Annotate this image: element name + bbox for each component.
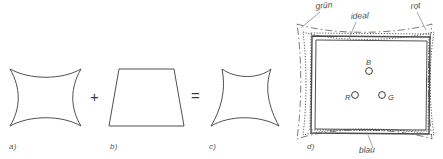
shape-trapezoid-b bbox=[109, 69, 184, 126]
convergence-diagram-d bbox=[297, 12, 434, 148]
point-label-b: B bbox=[366, 58, 371, 67]
frame-blue bbox=[310, 33, 429, 131]
panel-label-d: d) bbox=[307, 142, 315, 151]
frame-red bbox=[303, 32, 434, 135]
point-label-r: R bbox=[345, 93, 350, 102]
equals-operator: = bbox=[191, 88, 200, 103]
plus-operator: + bbox=[90, 89, 99, 104]
point-label-g: G bbox=[388, 93, 394, 102]
curve-label-blau: blau bbox=[359, 144, 375, 155]
convergence-point-b bbox=[366, 68, 373, 75]
convergence-point-r bbox=[352, 92, 359, 99]
panel-label-a: a) bbox=[9, 142, 17, 151]
figure-root: + = a) b) c) d) grün ideal rot blau B R … bbox=[0, 0, 443, 159]
curve-label-gruen: grün bbox=[315, 0, 333, 11]
shape-pincushion-trapezoid-c bbox=[211, 69, 279, 126]
curve-label-ideal: ideal bbox=[350, 10, 368, 21]
shape-pincushion-a bbox=[10, 69, 81, 126]
figure-canvas bbox=[0, 0, 443, 159]
panel-label-c: c) bbox=[209, 142, 216, 151]
frame-ideal-outer bbox=[311, 36, 430, 134]
frame-ideal-inner bbox=[315, 40, 427, 130]
panel-label-b: b) bbox=[110, 142, 118, 151]
leader-line-gruen bbox=[301, 12, 320, 28]
curve-label-rot: rot bbox=[410, 0, 421, 11]
convergence-point-g bbox=[379, 92, 386, 99]
